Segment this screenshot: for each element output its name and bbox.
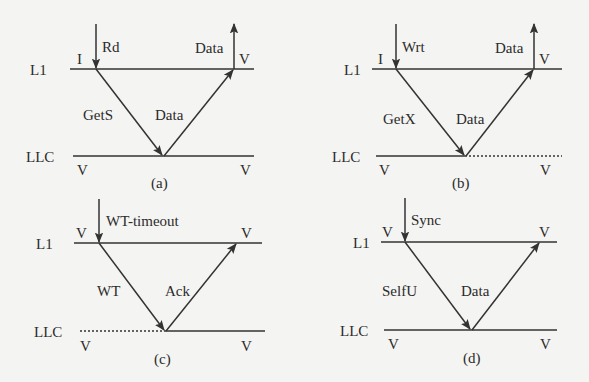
- l1-state-before: V: [382, 224, 393, 240]
- trigger-label: Sync: [411, 212, 441, 228]
- panel-a: L1 LLC Rd I V GetS Data Data V V (a): [26, 24, 254, 192]
- panel-b: L1 LLC Wrt I V GetX Data Data V V (b): [332, 24, 562, 192]
- llc-label: LLC: [340, 323, 368, 339]
- trigger-label: WT-timeout: [106, 213, 180, 229]
- trigger-label: Wrt: [402, 39, 426, 55]
- response-label: Data: [155, 107, 184, 123]
- request-label: SelfU: [382, 283, 417, 299]
- request-label: GetX: [383, 111, 416, 127]
- coherence-diagram: L1 LLC Rd I V GetS Data Data V V (a) L1 …: [0, 0, 589, 382]
- l1-label: L1: [30, 62, 47, 78]
- l1-state-after: V: [539, 224, 550, 240]
- caption: (b): [452, 175, 470, 192]
- request-label: GetS: [83, 107, 113, 123]
- l1-state-before: V: [76, 225, 87, 241]
- l1-state-after: V: [241, 225, 252, 241]
- llc-state-after: V: [240, 162, 251, 178]
- request-label: WT: [97, 283, 120, 299]
- llc-state-after: V: [540, 162, 551, 178]
- panel-d: L1 LLC Sync V V SelfU Data V V (d): [340, 198, 557, 367]
- llc-state-before: V: [379, 162, 390, 178]
- l1-state-after: V: [539, 51, 550, 67]
- llc-state-after: V: [241, 338, 252, 354]
- l1-label: L1: [36, 236, 53, 252]
- llc-state-before: V: [77, 162, 88, 178]
- l1-state-after: V: [239, 51, 250, 67]
- llc-label: LLC: [34, 324, 62, 340]
- llc-state-before: V: [388, 336, 399, 352]
- l1-state-before: I: [77, 51, 82, 67]
- output-label: Data: [195, 40, 224, 56]
- panel-c: L1 LLC WT-timeout V V WT Ack V V (c): [34, 199, 265, 368]
- caption: (d): [463, 350, 481, 367]
- llc-label: LLC: [26, 149, 54, 165]
- response-label: Data: [461, 283, 490, 299]
- response-label: Ack: [165, 283, 190, 299]
- llc-state-after: V: [540, 336, 551, 352]
- l1-label: L1: [344, 62, 361, 78]
- output-label: Data: [495, 40, 524, 56]
- response-label: Data: [456, 111, 485, 127]
- l1-label: L1: [353, 235, 370, 251]
- caption: (a): [151, 175, 168, 192]
- llc-state-before: V: [80, 338, 91, 354]
- trigger-label: Rd: [102, 39, 120, 55]
- l1-state-before: I: [378, 51, 383, 67]
- llc-label: LLC: [332, 149, 360, 165]
- caption: (c): [154, 351, 171, 368]
